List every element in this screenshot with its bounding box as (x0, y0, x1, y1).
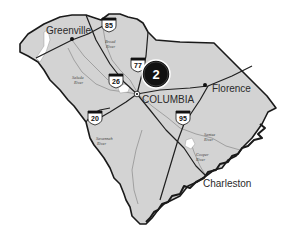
interstate-shield-20: 20 (88, 111, 102, 125)
city-label-florence: Florence (212, 83, 251, 94)
south-carolina-map: Greenville COLUMBIA Florence Charleston … (0, 0, 292, 237)
city-label-columbia: COLUMBIA (142, 94, 195, 105)
svg-text:95: 95 (179, 115, 187, 122)
river-label-saluda: SaludaRiver (72, 75, 84, 85)
marker-label: 2 (152, 67, 159, 82)
interstate-shield-95: 95 (176, 111, 190, 125)
svg-text:20: 20 (91, 115, 99, 122)
location-marker-2[interactable]: 2 (142, 60, 170, 88)
svg-text:77: 77 (134, 62, 142, 69)
state-outline (20, 14, 276, 224)
columbia-star (134, 91, 140, 97)
florence-dot (203, 83, 207, 87)
river-label-broad: BroadRiver (105, 39, 116, 49)
interstate-shield-85: 85 (102, 18, 116, 32)
city-label-charleston: Charleston (203, 178, 251, 189)
interstate-shield-26: 26 (109, 74, 123, 88)
svg-text:85: 85 (105, 22, 113, 29)
svg-text:26: 26 (112, 78, 120, 85)
city-label-greenville: Greenville (46, 25, 91, 36)
greenville-dot (70, 37, 74, 41)
